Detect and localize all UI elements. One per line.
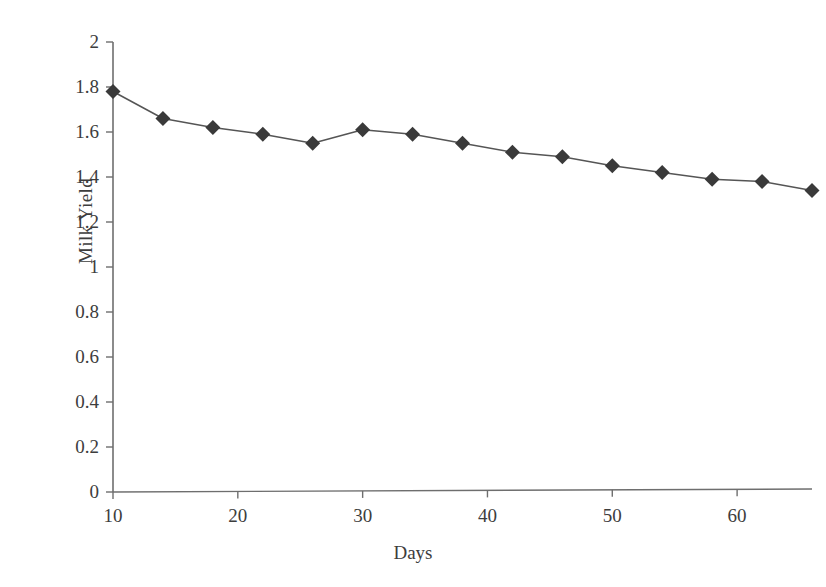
x-axis-tick-label: 10 (73, 506, 153, 525)
y-axis-tick-label: 0.2 (43, 437, 99, 456)
data-point-marker (405, 127, 420, 142)
x-axis-tick-label: 40 (447, 506, 527, 525)
data-point-marker (205, 120, 220, 135)
series-markers-milk-yield (106, 84, 820, 198)
data-point-marker (805, 183, 820, 198)
data-point-marker (106, 84, 121, 99)
y-axis-tick-label: 1.8 (43, 77, 99, 96)
y-axis-tick-label: 0 (43, 482, 99, 501)
data-point-marker (305, 136, 320, 151)
data-point-marker (355, 122, 370, 137)
data-point-marker (755, 174, 770, 189)
data-series-group (106, 84, 820, 198)
data-point-marker (155, 111, 170, 126)
data-point-marker (705, 172, 720, 187)
chart-axes (106, 42, 812, 499)
data-point-marker (605, 158, 620, 173)
x-axis-tick-label: 60 (697, 506, 777, 525)
data-point-marker (655, 165, 670, 180)
y-axis-tick-label: 1.6 (43, 122, 99, 141)
y-axis-tick-label: 0.4 (43, 392, 99, 411)
y-axis-tick-label: 0.6 (43, 347, 99, 366)
x-axis-line (113, 489, 812, 492)
data-point-marker (455, 136, 470, 151)
y-axis-title: Milk Yield (75, 151, 97, 291)
y-axis-tick-marks (106, 42, 113, 492)
x-axis-tick-label: 20 (198, 506, 278, 525)
data-point-marker (505, 145, 520, 160)
data-point-marker (555, 149, 570, 164)
x-axis-title: Days (0, 542, 826, 564)
x-axis-tick-label: 30 (323, 506, 403, 525)
x-axis-tick-label: 50 (572, 506, 652, 525)
y-axis-tick-label: 0.8 (43, 302, 99, 321)
chart-plot-area (0, 0, 826, 587)
data-point-marker (255, 127, 270, 142)
milk-yield-line-chart: 00.20.40.60.811.21.41.61.82 102030405060… (0, 0, 826, 587)
y-axis-tick-label: 2 (43, 32, 99, 51)
